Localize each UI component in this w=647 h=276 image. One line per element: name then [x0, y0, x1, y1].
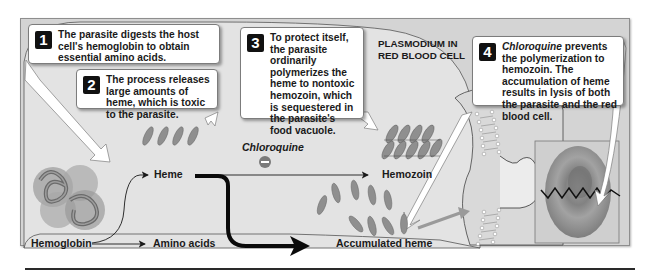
step-badge-2: 2	[83, 76, 100, 94]
step-badge-3: 3	[247, 34, 264, 52]
chloroquine-italic: Chloroquine	[502, 41, 562, 52]
bottom-rule	[25, 268, 635, 270]
step-badge-4: 4	[479, 43, 496, 61]
callout-1-text: The parasite digests the host cell's hem…	[58, 29, 213, 64]
label-accumulated-heme: Accumulated heme	[336, 237, 432, 249]
step-badge-1: 1	[35, 31, 52, 49]
callout-step-4: 4 Chloroquine prevents the polymerizatio…	[472, 36, 624, 106]
membrane-rupture	[500, 156, 540, 208]
callout-step-1: 1 The parasite digests the host cell's h…	[28, 24, 220, 64]
label-hemozoin: Hemozoin	[382, 168, 432, 180]
callout-step-2: 2 The process releases large amounts of …	[76, 69, 218, 109]
callout-2-text: The process releases large amounts of he…	[106, 74, 211, 120]
callout-4-body: prevents the polymerization to hemozoin.…	[502, 41, 617, 122]
region-label-plasmodium: PLASMODIUM IN RED BLOOD CELL	[378, 38, 468, 61]
hemoglobin-molecule	[33, 165, 105, 230]
label-hemoglobin: Hemoglobin	[31, 237, 92, 249]
callout-step-3: 3 To protect itself, the parasite ordina…	[240, 27, 364, 119]
label-chloroquine: Chloroquine	[242, 141, 304, 153]
label-heme: Heme	[154, 168, 183, 180]
callout-4-text: Chloroquine prevents the polymerization …	[502, 41, 617, 122]
label-amino-acids: Amino acids	[153, 237, 215, 249]
callout-3-text: To protect itself, the parasite ordinari…	[270, 32, 357, 136]
